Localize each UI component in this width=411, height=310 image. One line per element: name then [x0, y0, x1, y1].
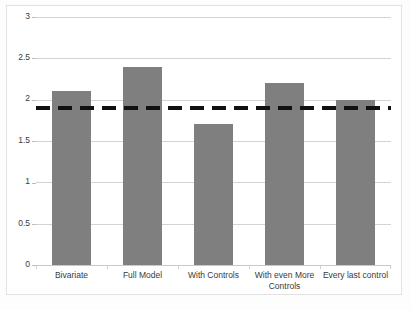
- x-axis-separator: [107, 265, 108, 269]
- y-axis-tick-label: 0.5: [8, 219, 30, 228]
- y-axis-tick-label: 1: [8, 177, 30, 186]
- x-axis-label-full-model: Full Model: [107, 270, 178, 281]
- y-axis-tick-label: 3: [8, 12, 30, 21]
- y-axis-tick-label: 0: [8, 260, 30, 269]
- x-axis-separator: [390, 265, 391, 269]
- x-axis-labels: Bivariate Full Model With Controls With …: [36, 270, 391, 304]
- x-axis-line: [36, 265, 391, 266]
- x-axis-label-with-even-more-controls: With even More Controls: [249, 270, 320, 292]
- chart-screenshot: 3 2.5 2 1.5 1 0.5 0 Bivariate: [0, 0, 411, 310]
- x-axis-label-with-controls: With Controls: [178, 270, 249, 281]
- bar-full-model: [123, 67, 162, 265]
- y-axis-tick-label: 2: [8, 94, 30, 103]
- x-axis-label-every-last-control: Every last control: [320, 270, 391, 281]
- gridline-3: [36, 17, 391, 18]
- bar-with-even-more-controls: [265, 83, 304, 265]
- plot-area: [36, 17, 391, 265]
- y-axis-tick-label: 1.5: [8, 136, 30, 145]
- bar-every-last-control: [336, 100, 375, 265]
- x-axis-separator: [36, 265, 37, 269]
- x-axis-separator: [178, 265, 179, 269]
- x-axis-label-bivariate: Bivariate: [36, 270, 107, 281]
- x-axis-separator: [249, 265, 250, 269]
- x-axis-separator: [320, 265, 321, 269]
- bar-bivariate: [52, 91, 91, 265]
- y-axis-tick-label: 2.5: [8, 53, 30, 62]
- gridline-2_5: [36, 58, 391, 59]
- bar-with-controls: [194, 124, 233, 265]
- reference-line: [36, 106, 391, 110]
